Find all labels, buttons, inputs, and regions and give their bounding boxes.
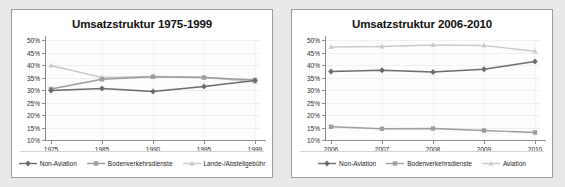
legend-marker-icon — [19, 159, 37, 168]
legend-marker-icon — [482, 159, 500, 168]
y-axis-label: 20% — [27, 112, 40, 119]
data-point-marker — [150, 89, 156, 95]
data-point-marker — [201, 84, 207, 90]
y-axis-label: 10% — [27, 137, 40, 144]
legend-item[interactable]: Aviation — [482, 159, 526, 168]
data-point-marker — [48, 63, 53, 68]
legend-divider-left — [20, 151, 264, 152]
data-point-marker — [328, 69, 334, 75]
data-point-marker — [99, 86, 105, 92]
legend-label: Non-Aviation — [339, 160, 376, 167]
y-axis-label: 35% — [27, 74, 40, 81]
legend-label: Aviation — [503, 160, 526, 167]
y-axis-label: 45% — [307, 49, 320, 56]
data-point-marker — [533, 130, 537, 134]
data-point-marker — [151, 75, 155, 79]
y-axis-label: 50% — [27, 37, 40, 44]
data-point-marker — [202, 75, 206, 79]
series-layer — [46, 40, 260, 140]
data-point-marker — [329, 125, 333, 129]
legend-marker-icon — [183, 159, 201, 168]
legend-item[interactable]: Non-Aviation — [19, 159, 77, 168]
data-point-marker — [430, 69, 436, 75]
chart-title-left: Umsatzstruktur 1975-1999 — [12, 18, 272, 30]
y-axis-label: 50% — [307, 37, 320, 44]
data-point-marker — [482, 128, 486, 132]
chart-legend-left: Non-AviationBodenverkehrsdiensteLande-/A… — [20, 159, 264, 168]
data-point-marker — [380, 127, 384, 131]
legend-marker-icon — [386, 159, 404, 168]
legend-label: Bodenverkehrsdienste — [407, 160, 472, 167]
legend-item[interactable]: Lande-/Abstellgebühr — [183, 159, 266, 168]
chart-panel-left: Umsatzstruktur 1975-1999 50%45%40%35%30%… — [11, 9, 273, 178]
data-point-marker — [481, 66, 487, 72]
chart-panel-right: Umsatzstruktur 2006-2010 50%45%40%35%30%… — [291, 9, 553, 178]
x-axis-line — [45, 140, 266, 141]
data-point-marker — [431, 126, 435, 130]
chart-title-right: Umsatzstruktur 2006-2010 — [292, 18, 552, 30]
chart-legend-right: Non-AviationBodenverkehrsdiensteAviation — [300, 159, 544, 168]
legend-item[interactable]: Bodenverkehrsdienste — [87, 159, 173, 168]
legend-marker-icon — [87, 159, 105, 168]
y-axis-label: 35% — [307, 74, 320, 81]
y-axis-label: 15% — [307, 124, 320, 131]
plot-area-left: 50%45%40%35%30%25%20%15%10%1975198519901… — [46, 40, 260, 140]
y-axis-label: 30% — [307, 87, 320, 94]
y-axis-label: 15% — [27, 124, 40, 131]
y-axis-label: 45% — [27, 49, 40, 56]
legend-label: Bodenverkehrsdienste — [108, 160, 173, 167]
x-axis-line — [325, 140, 546, 141]
y-axis-label: 20% — [307, 112, 320, 119]
data-point-marker — [100, 77, 104, 81]
y-axis-label: 25% — [27, 99, 40, 106]
figure-container: Umsatzstruktur 1975-1999 50%45%40%35%30%… — [0, 0, 565, 187]
y-axis-label: 25% — [307, 99, 320, 106]
plot-area-right: 50%45%40%35%30%25%20%15%10%2006200720082… — [326, 40, 540, 140]
data-point-marker — [379, 67, 385, 73]
y-axis-label: 40% — [27, 62, 40, 69]
legend-label: Lande-/Abstellgebühr — [204, 160, 266, 167]
y-axis-label: 30% — [27, 87, 40, 94]
series-layer — [326, 40, 540, 140]
legend-marker-icon — [318, 159, 336, 168]
legend-divider-right — [300, 151, 544, 152]
legend-item[interactable]: Bodenverkehrsdienste — [386, 159, 472, 168]
y-axis-label: 40% — [307, 62, 320, 69]
y-axis-label: 10% — [307, 137, 320, 144]
legend-label: Non-Aviation — [40, 160, 77, 167]
data-point-marker — [532, 59, 538, 65]
legend-item[interactable]: Non-Aviation — [318, 159, 376, 168]
